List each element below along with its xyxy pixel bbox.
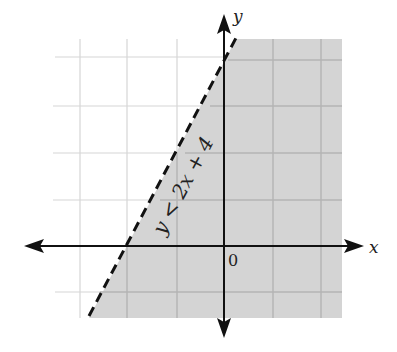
- y-axis-label: y: [232, 6, 243, 26]
- x-axis-label: x: [369, 237, 379, 257]
- inequality-graph: x y 0 y < 2x + 4: [0, 0, 397, 352]
- origin-label: 0: [228, 251, 238, 270]
